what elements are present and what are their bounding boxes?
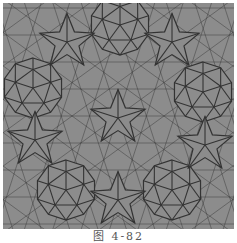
- figure-caption: 图 4-82: [0, 231, 237, 243]
- tiling-graphic: [3, 3, 234, 229]
- penrose-tiling-figure: [3, 3, 234, 229]
